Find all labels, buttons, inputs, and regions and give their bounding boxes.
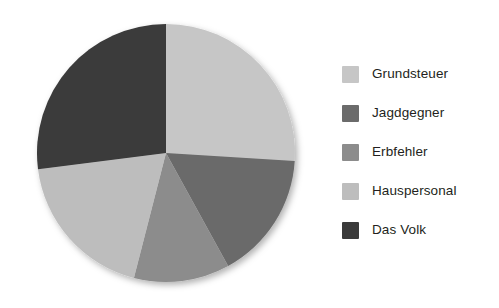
legend-item[interactable]: Grundsteuer xyxy=(342,55,497,94)
legend-item[interactable]: Jagdgegner xyxy=(342,94,497,133)
pie-chart-figure: GrundsteuerJagdgegnerErbfehlerHausperson… xyxy=(0,0,499,308)
legend-swatch-jagdgegner xyxy=(342,105,359,122)
legend-swatch-erbfehler xyxy=(342,144,359,161)
pie-slice-group xyxy=(37,24,295,282)
legend-item-label: Das Volk xyxy=(372,223,426,238)
legend-item-label: Jagdgegner xyxy=(372,106,444,121)
legend-item[interactable]: Erbfehler xyxy=(342,133,497,172)
pie-chart-graphic xyxy=(37,24,295,282)
legend-item[interactable]: Hauspersonal xyxy=(342,172,497,211)
legend-swatch-grundsteuer xyxy=(342,66,359,83)
legend-swatch-hauspersonal xyxy=(342,183,359,200)
legend-item-label: Erbfehler xyxy=(372,145,428,160)
legend-swatch-das-volk xyxy=(342,222,359,239)
chart-legend: GrundsteuerJagdgegnerErbfehlerHausperson… xyxy=(342,55,497,250)
pie-slice[interactable] xyxy=(37,24,166,169)
legend-item-label: Grundsteuer xyxy=(372,67,448,82)
pie-svg xyxy=(37,24,295,282)
legend-item-label: Hauspersonal xyxy=(372,184,457,199)
pie-slice[interactable] xyxy=(166,24,295,161)
legend-item[interactable]: Das Volk xyxy=(342,211,497,250)
